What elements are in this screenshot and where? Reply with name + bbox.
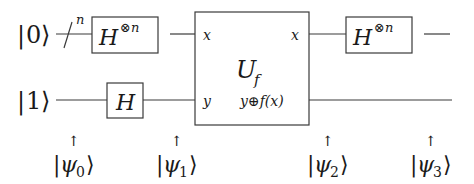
- svg-text:⟩: ⟩: [41, 87, 50, 115]
- oracle-port-out-y: y⊕f(x): [239, 93, 284, 109]
- state-psi-1: ↑ | ψ 1 ⟩: [156, 133, 198, 180]
- svg-text:2: 2: [330, 164, 339, 180]
- svg-text:⟩: ⟩: [340, 152, 349, 177]
- svg-text:⟩: ⟩: [41, 21, 50, 49]
- ket-1: | 1 ⟩: [17, 87, 50, 116]
- circuit-diagram: | 0 ⟩ | 1 ⟩ n H ⊗n H x y x y⊕f(x) U f H …: [0, 0, 474, 184]
- svg-text:⊗n: ⊗n: [374, 20, 393, 35]
- oracle-port-in-y: y: [202, 93, 212, 109]
- state-psi-3: ↑ | ψ 3 ⟩: [410, 133, 452, 180]
- bundle-slash-icon: [64, 22, 72, 48]
- svg-text:0: 0: [76, 164, 85, 180]
- svg-text:H: H: [98, 25, 119, 50]
- up-arrow-icon: ↑: [171, 133, 183, 149]
- ket-0: | 0 ⟩: [17, 21, 50, 50]
- svg-text:3: 3: [433, 164, 442, 180]
- up-arrow-icon: ↑: [322, 133, 334, 149]
- svg-text:1: 1: [26, 87, 41, 115]
- oracle-port-in-x: x: [203, 27, 211, 43]
- up-arrow-icon: ↑: [425, 133, 437, 149]
- oracle-port-out-x: x: [291, 27, 299, 43]
- svg-text:|: |: [17, 87, 25, 116]
- state-psi-2: ↑ | ψ 2 ⟩: [307, 133, 349, 180]
- svg-text:0: 0: [26, 21, 41, 49]
- hadamard-bottom-label: H: [115, 90, 136, 115]
- svg-text:⟩: ⟩: [86, 152, 95, 177]
- bundle-size-label: n: [76, 12, 84, 27]
- svg-text:H: H: [352, 25, 373, 50]
- svg-text:1: 1: [179, 164, 188, 180]
- svg-text:⊗n: ⊗n: [120, 20, 139, 35]
- svg-text:⟩: ⟩: [189, 152, 198, 177]
- state-psi-0: ↑ | ψ 0 ⟩: [53, 133, 95, 180]
- up-arrow-icon: ↑: [68, 133, 80, 149]
- svg-text:⟩: ⟩: [443, 152, 452, 177]
- svg-text:|: |: [17, 21, 25, 50]
